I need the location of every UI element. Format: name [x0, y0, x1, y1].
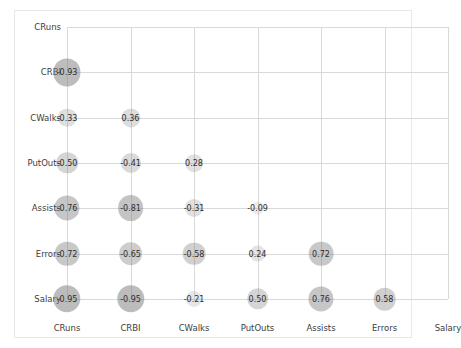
cell-value-label: 0.76	[312, 294, 330, 303]
cell-value-label: 0.58	[376, 294, 394, 303]
x-tick-label-cruns: CRuns	[54, 323, 81, 333]
cell-value-label: 0.28	[185, 158, 203, 167]
cell-value-label: -0.76	[57, 204, 78, 213]
cell-value-label: -0.65	[120, 249, 141, 258]
cell-value-label: 0.50	[249, 294, 267, 303]
cell-value-label: -0.31	[184, 204, 205, 213]
x-tick-label-assists: Assists	[306, 323, 335, 333]
cell-value-label: -0.95	[120, 294, 141, 303]
cell-value-label: -0.21	[184, 294, 205, 303]
gridline-horizontal-cruns	[67, 27, 448, 28]
cell-value-label: -0.81	[120, 204, 141, 213]
cell-value-label: -0.50	[57, 158, 78, 167]
x-tick-label-putouts: PutOuts	[241, 323, 275, 333]
cell-value-label: 0.24	[249, 249, 267, 258]
gridline-vertical-salary	[448, 27, 449, 299]
x-tick-label-cwalks: CWalks	[179, 323, 210, 333]
x-tick-label-salary: Salary	[435, 323, 461, 333]
cell-value-label: -0.58	[184, 249, 205, 258]
cell-value-label: -0.93	[57, 68, 78, 77]
y-tick-label-cruns: CRuns	[34, 22, 61, 32]
cell-value-label: 0.36	[122, 113, 140, 122]
cell-value-label: -0.09	[247, 204, 268, 213]
cell-value-label: -0.72	[57, 249, 78, 258]
x-tick-label-crbi: CRBI	[120, 323, 140, 333]
x-tick-label-errors: Errors	[372, 323, 397, 333]
cell-value-label: -0.41	[120, 158, 141, 167]
gridline-horizontal-crbi	[67, 72, 448, 73]
cell-value-label: -0.33	[57, 113, 78, 122]
cell-value-label: -0.95	[57, 294, 78, 303]
cell-value-label: 0.72	[312, 249, 330, 258]
